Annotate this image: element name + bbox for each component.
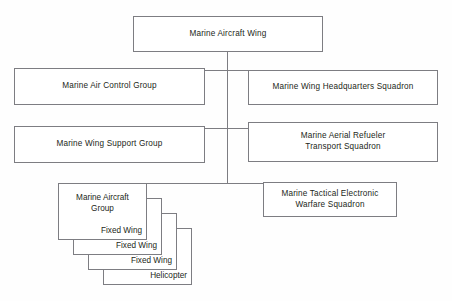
node-marine-aircraft-wing: Marine Aircraft Wing bbox=[133, 16, 323, 52]
stack-layer-label: Fixed Wing bbox=[116, 240, 157, 251]
stack-layer-label: Fixed Wing bbox=[131, 255, 172, 266]
connector-branch-row3 bbox=[205, 128, 249, 129]
stack-layer-label: Helicopter bbox=[150, 270, 187, 281]
node-label: Marine Wing Headquarters Squadron bbox=[269, 82, 416, 93]
connector-branch-row2 bbox=[205, 70, 249, 71]
connector-branch-row4 bbox=[133, 183, 264, 184]
node-marine-air-control-group: Marine Air Control Group bbox=[14, 68, 205, 105]
stack-layer-label: Fixed Wing bbox=[101, 225, 142, 236]
node-marine-tactical-electronic-warfare-squadron: Marine Tactical Electronic Warfare Squad… bbox=[263, 182, 397, 217]
node-label: Marine Wing Support Group bbox=[53, 139, 165, 150]
node-marine-aerial-refueler-transport-squadron: Marine Aerial Refueler Transport Squadro… bbox=[248, 122, 438, 162]
node-label: Marine Tactical Electronic Warfare Squad… bbox=[279, 189, 382, 211]
org-chart-diagram: Marine Aircraft Wing Marine Air Control … bbox=[0, 0, 452, 301]
node-marine-aircraft-group-layer-1: Marine Aircraft Group Fixed Wing bbox=[58, 183, 147, 240]
stack-title-label: Marine Aircraft Group bbox=[59, 192, 146, 214]
node-marine-wing-support-group: Marine Wing Support Group bbox=[14, 126, 205, 163]
connector-vertical-spine bbox=[227, 52, 228, 183]
node-marine-wing-headquarters-squadron: Marine Wing Headquarters Squadron bbox=[248, 70, 438, 105]
node-label: Marine Aerial Refueler Transport Squadro… bbox=[298, 131, 389, 153]
node-label: Marine Air Control Group bbox=[59, 81, 160, 92]
node-label: Marine Aircraft Wing bbox=[187, 29, 270, 40]
